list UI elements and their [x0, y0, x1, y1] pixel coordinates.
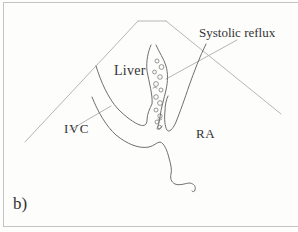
systolic-reflux-label: Systolic reflux: [199, 26, 275, 40]
ivc-label: IVC: [64, 122, 89, 136]
panel-letter-label: b): [13, 195, 27, 214]
reflux-bubbles: [153, 59, 164, 129]
figure-panel: Systolic reflux Liver IVC RA b): [0, 0, 298, 232]
ra-wall: [165, 44, 206, 131]
liver-label: Liver: [114, 63, 146, 78]
ra-label: RA: [196, 127, 215, 141]
reflux-leader-line: [166, 40, 237, 79]
